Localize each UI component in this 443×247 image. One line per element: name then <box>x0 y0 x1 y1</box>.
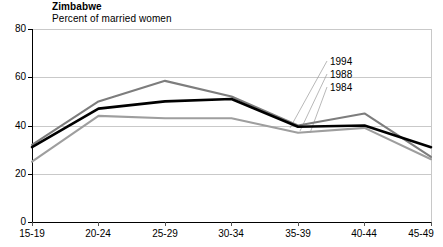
legend-label-1984: 1984 <box>330 82 352 93</box>
chart-figure: Zimbabwe Percent of married women 80 60 … <box>0 0 443 247</box>
leader-line-1994 <box>290 61 327 128</box>
chart-plot-area <box>0 0 443 247</box>
legend-label-1994: 1994 <box>330 56 352 67</box>
data-line-1984 <box>32 116 431 162</box>
legend-label-1988: 1988 <box>330 69 352 80</box>
